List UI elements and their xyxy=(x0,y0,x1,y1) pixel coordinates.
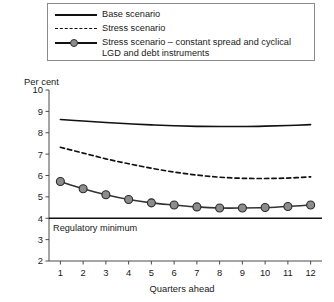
y-tick-label: 10 xyxy=(33,84,43,95)
x-tick-label: 7 xyxy=(194,267,199,278)
x-tick-label: 4 xyxy=(126,267,131,278)
series-marker-2 xyxy=(216,204,224,212)
series-marker-2 xyxy=(56,177,64,185)
x-axis-title: Quarters ahead xyxy=(119,283,214,294)
y-tick-label: 9 xyxy=(38,106,43,117)
series-marker-2 xyxy=(307,201,315,209)
series-marker-2 xyxy=(238,204,246,212)
y-tick-label: 4 xyxy=(38,213,43,224)
series-line-2 xyxy=(60,181,310,208)
series-marker-2 xyxy=(147,199,155,207)
y-tick-label: 7 xyxy=(38,149,43,160)
x-tick-label: 3 xyxy=(103,267,108,278)
series-marker-2 xyxy=(102,191,110,199)
series-marker-2 xyxy=(193,203,201,211)
y-tick-label: 6 xyxy=(38,170,43,181)
y-tick-label: 2 xyxy=(38,255,43,266)
y-tick-label: 3 xyxy=(38,234,43,245)
x-tick-label: 9 xyxy=(240,267,245,278)
series-marker-2 xyxy=(284,202,292,210)
y-tick-label: 5 xyxy=(38,191,43,202)
series-line-1 xyxy=(60,147,310,178)
series-line-0 xyxy=(60,120,310,127)
plot-area: 2345678910123456789101112Regulatory mini… xyxy=(0,0,334,302)
x-tick-label: 1 xyxy=(58,267,63,278)
x-tick-label: 10 xyxy=(260,267,270,278)
series-marker-2 xyxy=(125,195,133,203)
x-tick-label: 8 xyxy=(217,267,222,278)
x-axis-title-wrap: Quarters ahead xyxy=(0,283,334,294)
y-tick-label: 8 xyxy=(38,127,43,138)
series-marker-2 xyxy=(79,185,87,193)
chart-figure: Base scenario Stress scenario Stress sce… xyxy=(0,0,334,302)
series-marker-2 xyxy=(170,201,178,209)
x-tick-label: 5 xyxy=(149,267,154,278)
x-tick-label: 6 xyxy=(172,267,177,278)
x-tick-label: 12 xyxy=(305,267,315,278)
x-tick-label: 2 xyxy=(81,267,86,278)
series-marker-2 xyxy=(261,204,269,212)
plot-svg: 2345678910123456789101112Regulatory mini… xyxy=(0,0,334,302)
x-tick-label: 11 xyxy=(283,267,293,278)
regulatory-minimum-label: Regulatory minimum xyxy=(53,223,138,233)
